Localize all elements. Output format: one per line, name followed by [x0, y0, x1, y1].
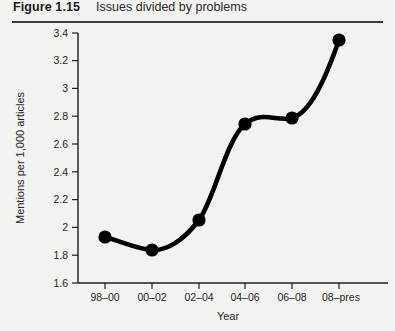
x-tick-label: 06–08: [277, 291, 306, 303]
data-point: [98, 230, 111, 243]
x-tick-label: 98–00: [90, 291, 119, 303]
y-tick-label: 3.4: [53, 27, 68, 39]
y-tick-label: 1.6: [53, 277, 68, 289]
data-point: [192, 213, 205, 226]
y-axis-tick-labels: 1.6 1.8 2 2.2 2.4 2.6 2.8 3 3.2 3.4: [53, 27, 68, 289]
x-tick-label: 00–02: [137, 291, 166, 303]
data-point-markers: [98, 33, 345, 256]
figure-panel: Figure 1.15 Issues divided by problems: [0, 0, 395, 331]
y-tick-label: 2: [62, 221, 68, 233]
y-tick-label: 2.8: [53, 110, 68, 122]
data-point: [285, 111, 298, 124]
data-point: [145, 243, 158, 256]
data-point: [332, 33, 345, 46]
x-tick-label: 04–06: [230, 291, 259, 303]
y-axis-title: Mentions per 1,000 articles: [14, 91, 26, 224]
line-chart: 1.6 1.8 2 2.2 2.4 2.6 2.8 3 3.2 3.4: [0, 0, 395, 331]
y-tick-label: 2.4: [53, 166, 68, 178]
y-tick-label: 3.2: [53, 54, 68, 66]
y-axis-ticks: [72, 33, 78, 283]
chart-svg: 1.6 1.8 2 2.2 2.4 2.6 2.8 3 3.2 3.4: [0, 0, 395, 331]
data-point: [238, 117, 251, 130]
x-axis-ticks: [105, 283, 339, 289]
y-tick-label: 3: [62, 82, 68, 94]
x-tick-label: 08–pres: [322, 291, 360, 303]
y-tick-label: 2.6: [53, 138, 68, 150]
data-line: [105, 40, 339, 250]
x-axis-tick-labels: 98–00 00–02 02–04 04–06 06–08 08–pres: [90, 291, 360, 303]
x-axis-title: Year: [217, 310, 240, 322]
y-tick-label: 1.8: [53, 249, 68, 261]
y-tick-label: 2.2: [53, 193, 68, 205]
x-tick-label: 02–04: [184, 291, 213, 303]
